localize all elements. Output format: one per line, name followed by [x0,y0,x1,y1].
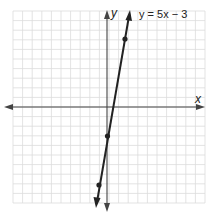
line-top-arrow-icon [126,10,133,21]
y-axis-bottom-arrow-icon [104,203,110,212]
x-axis-label: x [195,92,201,106]
point-2-7 [122,36,127,41]
y-axis-label: y [111,6,117,20]
coordinate-graph [0,0,210,216]
point-0-neg3 [105,133,110,138]
equation-label: y = 5x − 3 [139,8,187,20]
x-axis [4,104,205,110]
point-neg1-neg8 [96,182,101,187]
x-axis-left-arrow-icon [4,104,13,110]
